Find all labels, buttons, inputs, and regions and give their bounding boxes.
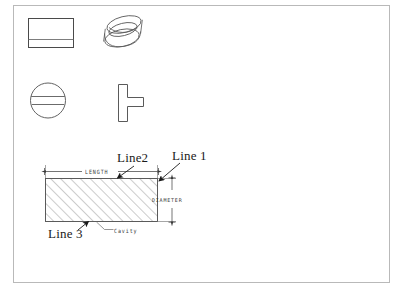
label-line3: Line 3: [48, 226, 83, 242]
tee-profile: [119, 85, 144, 122]
dimension-diameter-text: DIAMETER: [152, 197, 182, 203]
label-line1: Line 1: [172, 148, 207, 164]
label-cavity: Cavity: [114, 227, 137, 234]
isometric-cylinder: [103, 13, 143, 50]
leader-line2: [118, 166, 135, 178]
front-view-rectangle: [29, 19, 74, 48]
section-view: [46, 179, 158, 222]
dimension-length-text: LENGTH: [85, 168, 108, 175]
label-line2: Line2: [117, 150, 148, 166]
end-view-circle: [31, 83, 66, 118]
drawing-sheet: Line2 Line 1 Line 3 Cavity LENGTH DIAMET…: [0, 0, 406, 300]
